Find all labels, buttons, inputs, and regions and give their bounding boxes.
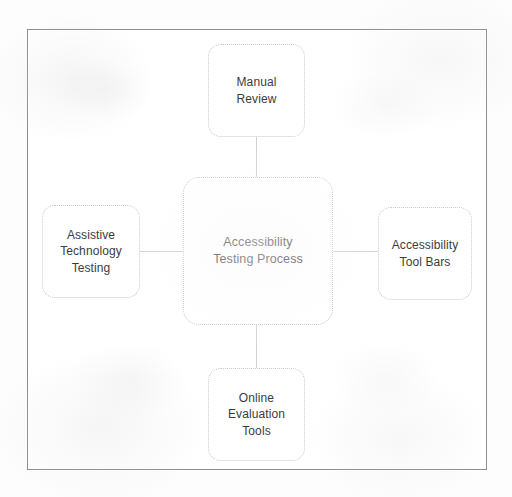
node-online-evaluation-tools-label: Online Evaluation Tools <box>222 390 291 440</box>
node-online-evaluation-tools[interactable]: Online Evaluation Tools <box>208 368 305 461</box>
node-manual-review[interactable]: Manual Review <box>208 44 305 137</box>
node-manual-review-label: Manual Review <box>231 74 283 107</box>
node-accessibility-testing-process-label: Accessibility Testing Process <box>207 234 309 269</box>
connector-center-to-accessibility-tool-bars <box>333 251 378 252</box>
connector-center-to-online-evaluation-tools <box>256 325 257 368</box>
diagram-canvas: Manual Review Assistive Technology Testi… <box>0 0 512 497</box>
node-accessibility-tool-bars-label: Accessibility Tool Bars <box>386 237 465 270</box>
node-assistive-technology-testing[interactable]: Assistive Technology Testing <box>42 205 140 298</box>
node-accessibility-tool-bars[interactable]: Accessibility Tool Bars <box>378 207 472 300</box>
node-assistive-technology-testing-label: Assistive Technology Testing <box>54 227 128 277</box>
connector-center-to-manual-review <box>256 137 257 177</box>
connector-center-to-assistive-technology-testing <box>140 251 183 252</box>
node-accessibility-testing-process[interactable]: Accessibility Testing Process <box>183 177 333 325</box>
